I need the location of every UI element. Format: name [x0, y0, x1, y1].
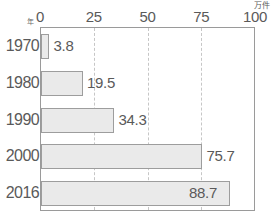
bar-1990 — [41, 108, 114, 133]
x-tick-50: 50 — [139, 8, 155, 25]
bar-row: 88.7 — [41, 175, 254, 212]
category-axis-labels: 1970 1980 1990 2000 2016 — [0, 27, 40, 211]
plot-area: 3.8 19.5 34.3 75.7 88.7 — [40, 27, 255, 211]
bar-value-2000: 75.7 — [207, 146, 235, 165]
bar-1980 — [41, 71, 83, 96]
bar-row: 34.3 — [41, 102, 254, 139]
bar-value-2016: 88.7 — [189, 183, 217, 202]
bar-row: 3.8 — [41, 28, 254, 65]
category-label-1990: 1990 — [6, 110, 39, 129]
category-label-2000: 2000 — [6, 146, 39, 165]
horizontal-bar-chart: 万件 年 0 25 50 75 100 1970 1980 1990 2000 … — [0, 0, 274, 219]
x-tick-100: 100 — [243, 8, 267, 25]
category-label-1980: 1980 — [6, 73, 39, 92]
bar-row: 19.5 — [41, 65, 254, 102]
bar-2000 — [41, 144, 202, 169]
bar-value-1980: 19.5 — [87, 73, 115, 92]
category-label-1970: 1970 — [6, 36, 39, 55]
bar-rows: 3.8 19.5 34.3 75.7 88.7 — [41, 28, 254, 210]
bar-value-1970: 3.8 — [54, 36, 74, 55]
bar-row: 75.7 — [41, 138, 254, 175]
bar-value-1990: 34.3 — [119, 110, 147, 129]
x-tick-0: 0 — [36, 8, 44, 25]
x-axis-tick-labels: 0 25 50 75 100 — [0, 8, 274, 26]
x-tick-75: 75 — [193, 8, 209, 25]
bar-1970 — [41, 34, 49, 59]
x-tick-25: 25 — [86, 8, 102, 25]
category-label-2016: 2016 — [6, 183, 39, 202]
